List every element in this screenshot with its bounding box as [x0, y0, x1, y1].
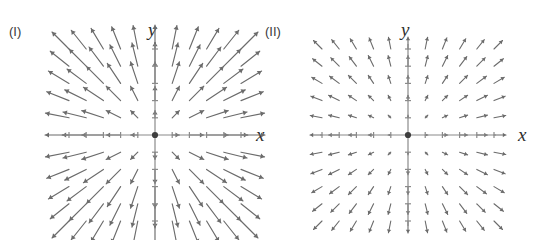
field-arrow-head [67, 69, 72, 73]
field-arrow-head [89, 218, 93, 223]
field-arrow-head [484, 152, 488, 156]
field-arrow-head [310, 133, 313, 137]
origin-dot [152, 132, 158, 138]
field-arrow-head [243, 110, 248, 115]
panel-two-vector-field [272, 0, 543, 240]
field-arrow-head [175, 223, 180, 228]
field-arrow-head [387, 211, 391, 215]
field-arrow-head [238, 197, 243, 201]
field-arrow-shaft [112, 221, 121, 240]
field-arrow-head [243, 155, 248, 160]
field-arrow-head [484, 114, 488, 118]
field-arrow-head [387, 56, 391, 60]
field-arrow-head [329, 114, 333, 118]
field-arrow-head [261, 132, 265, 137]
field-arrow-head [260, 154, 264, 159]
field-arrow-head [329, 152, 333, 156]
field-arrow-head [45, 132, 49, 137]
panel-one-vector-field [0, 0, 271, 240]
field-arrow-head [217, 218, 221, 223]
panel-one: (I) y x [0, 0, 271, 240]
field-arrow-head [174, 25, 179, 29]
field-arrow-head [425, 211, 429, 215]
field-arrow-head [238, 69, 243, 73]
field-arrow-head [130, 223, 135, 228]
field-arrow-head [63, 155, 68, 160]
vector-field-figure: (I) y x (II) y x [0, 0, 543, 240]
field-arrow-shaft [207, 221, 219, 240]
field-arrow-head [260, 111, 264, 116]
panel-two: (II) y x [272, 0, 543, 240]
field-arrow-head [67, 197, 72, 201]
field-arrow-head [503, 133, 506, 137]
field-arrow-head [45, 154, 49, 159]
field-arrow-head [131, 25, 136, 29]
field-arrow-shaft [91, 221, 103, 240]
field-arrow-head [152, 25, 157, 29]
field-arrow-head [425, 56, 429, 60]
origin-dot [405, 132, 411, 138]
field-arrow-head [175, 43, 180, 48]
field-arrow-head [45, 111, 49, 116]
field-arrow-head [130, 43, 135, 48]
field-arrow-head [406, 230, 410, 233]
field-arrow-shaft [189, 221, 198, 240]
field-arrow-head [63, 110, 68, 115]
field-arrow-head [217, 47, 221, 52]
field-arrow-head [406, 37, 410, 40]
field-arrow-head [89, 47, 93, 52]
